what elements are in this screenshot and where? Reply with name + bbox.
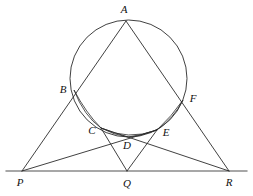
point-label-c: C (88, 125, 95, 136)
arc-e-f (157, 100, 183, 130)
segment-r-a (126, 21, 229, 171)
point-label-f: F (190, 93, 197, 104)
point-label-a: A (121, 4, 128, 15)
geometry-canvas (0, 0, 253, 196)
geometry-figure: A B C D E F P Q R (0, 0, 253, 196)
point-label-d: D (123, 140, 131, 151)
point-label-p: P (17, 177, 24, 188)
arc-b-c-secondary (74, 90, 101, 128)
segment-p-a (22, 21, 126, 171)
segment-p-e (22, 130, 157, 171)
point-label-e: E (163, 127, 170, 138)
point-label-q: Q (123, 178, 131, 189)
arc-e-f-secondary (157, 100, 183, 130)
point-label-r: R (226, 177, 233, 188)
point-label-b: B (60, 84, 67, 95)
arc-b-c (74, 90, 101, 128)
